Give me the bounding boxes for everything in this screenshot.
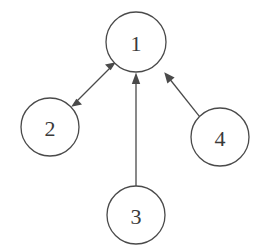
arrowhead-toward-node2 xyxy=(71,99,82,107)
node-2-label: 2 xyxy=(45,116,56,141)
node-graph: 1 2 3 4 xyxy=(0,0,263,251)
edge-node4-node1 xyxy=(164,72,200,117)
edge-line-4-1 xyxy=(169,78,200,117)
node-2[interactable]: 2 xyxy=(21,98,79,156)
edge-line-1-2 xyxy=(75,66,113,104)
edge-node3-node1 xyxy=(132,73,140,187)
arrowhead-node4-to-node1 xyxy=(164,72,174,83)
arrowhead-node3-to-node1 xyxy=(132,73,140,85)
diagram-canvas: 1 2 3 4 xyxy=(0,0,263,251)
node-3-label: 3 xyxy=(131,204,142,229)
node-3[interactable]: 3 xyxy=(107,186,165,244)
edge-node1-node2 xyxy=(71,62,116,107)
node-1-label: 1 xyxy=(131,31,142,56)
node-4[interactable]: 4 xyxy=(191,108,249,166)
node-4-label: 4 xyxy=(215,126,226,151)
node-1[interactable]: 1 xyxy=(106,12,166,72)
